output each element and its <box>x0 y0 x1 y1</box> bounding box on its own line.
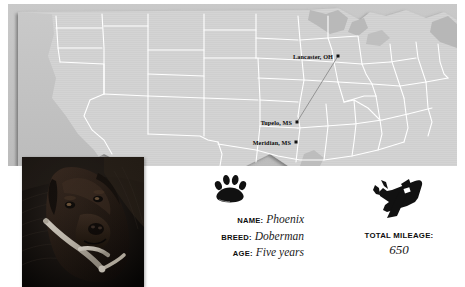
pet-info-band: NAME:Phoenix BREED:Doberman AGE:Five yea… <box>0 166 465 287</box>
detail-row-name: NAME:Phoenix <box>150 211 304 228</box>
city-label-lancaster-oh: Lancaster, OH <box>293 53 338 60</box>
pet-detail-rows: NAME:Phoenix BREED:Doberman AGE:Five yea… <box>150 211 310 261</box>
name-label: NAME: <box>237 216 263 225</box>
city-label-meridian-ms: Meridian, MS <box>253 139 296 146</box>
detail-row-age: AGE:Five years <box>150 244 304 261</box>
us-map-graphic <box>8 4 457 166</box>
breed-value: Doberman <box>255 230 304 242</box>
route-map-panel: Lancaster, OH Tupelo, MS Meridian, MS <box>8 4 457 166</box>
age-label: AGE: <box>233 249 253 258</box>
dog-photo-image <box>22 157 144 287</box>
airplane-icon <box>371 176 427 220</box>
detail-row-breed: BREED:Doberman <box>150 228 304 245</box>
dog-photo-frame <box>22 157 144 287</box>
breed-label: BREED: <box>221 233 252 242</box>
name-value: Phoenix <box>266 213 304 225</box>
pet-detail-block: NAME:Phoenix BREED:Doberman AGE:Five yea… <box>150 174 310 261</box>
total-mileage-label: TOTAL MILEAGE: <box>340 230 458 241</box>
total-mileage-block: TOTAL MILEAGE: 650 <box>340 176 458 258</box>
map-landmass <box>18 8 457 166</box>
age-value: Five years <box>256 246 304 258</box>
paw-print-icon <box>211 174 249 204</box>
city-label-tupelo-ms: Tupelo, MS <box>261 119 297 126</box>
total-mileage-value: 650 <box>340 241 458 258</box>
